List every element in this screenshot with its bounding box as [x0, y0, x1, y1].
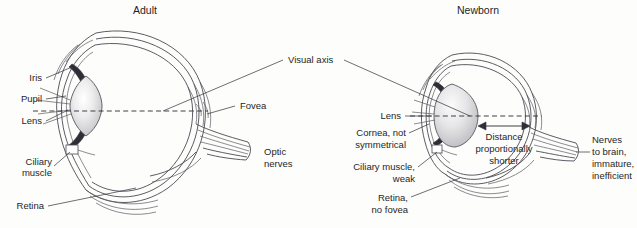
newborn-label-nerves-line3: immature,	[592, 158, 634, 169]
newborn-label-cornea-line2: symmetrical	[355, 139, 406, 150]
newborn-label-cornea-line1: Cornea, not	[356, 127, 406, 138]
adult-label-optic-nerves-line1: Optic	[264, 146, 286, 157]
leader-newborn-retina	[411, 178, 460, 197]
newborn-label-nerves-line1: Nerves	[592, 134, 622, 145]
leader-newborn-ciliary	[418, 152, 437, 167]
distance-label-line3: shorter	[489, 155, 519, 166]
visual-axis-label: Visual axis	[288, 54, 333, 65]
distance-label-line1: Distance	[486, 131, 523, 142]
newborn-label-retina-line2: no fovea	[372, 204, 409, 215]
leader-ciliary	[54, 152, 70, 166]
adult-label-optic-nerves-line2: nerves	[264, 158, 293, 169]
newborn-label-ciliary-line1: Ciliary muscle,	[353, 161, 415, 172]
adult-label-fovea: Fovea	[240, 100, 267, 111]
adult-label-ciliary-line1: Ciliary	[26, 156, 53, 167]
newborn-outer-sweep	[445, 174, 509, 198]
adult-cornea-highlight	[54, 40, 93, 80]
newborn-lens	[434, 84, 478, 147]
newborn-label-nerves-line2: to brain,	[592, 146, 626, 157]
adult-label-iris: Iris	[29, 72, 42, 83]
adult-label-retina: Retina	[17, 200, 45, 211]
newborn-panel-title: Newborn	[457, 4, 499, 16]
newborn-label-ciliary-line2: weak	[392, 173, 415, 184]
adult-lens	[70, 76, 102, 136]
newborn-zonules	[412, 100, 435, 124]
adult-label-pupil: Pupil	[21, 93, 42, 104]
adult-sclera	[86, 31, 211, 203]
adult-eye-drawing	[33, 31, 283, 214]
newborn-label-nerves-line4: inefficient	[592, 170, 632, 181]
newborn-label-retina-line1: Retina,	[378, 192, 408, 203]
adult-leaders	[46, 67, 235, 206]
adult-label-ciliary-line2: muscle	[22, 167, 52, 178]
leader-fovea	[207, 106, 235, 114]
distance-label-line2: proportionally	[475, 143, 532, 154]
adult-label-lens: Lens	[21, 115, 42, 126]
newborn-eye-drawing	[344, 53, 578, 198]
distance-dimension-arrow	[478, 122, 530, 130]
leader-newborn-cornea	[409, 124, 429, 133]
adult-ciliary-muscle	[66, 145, 95, 155]
eye-comparison-svg: Adult Newborn Visual axis Iris Pupil Len…	[0, 0, 637, 228]
adult-panel-title: Adult	[133, 4, 157, 16]
diagram-canvas: Adult Newborn Visual axis Iris Pupil Len…	[0, 0, 637, 228]
newborn-label-lens: Lens	[380, 110, 401, 121]
